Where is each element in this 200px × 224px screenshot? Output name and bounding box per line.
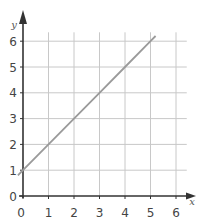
axes bbox=[19, 10, 196, 200]
series-line bbox=[18, 36, 156, 175]
y-axis-arrow-icon bbox=[19, 10, 27, 24]
x-tick-label: 3 bbox=[96, 206, 104, 220]
data-series bbox=[18, 36, 156, 175]
y-tick-label: 5 bbox=[9, 61, 17, 75]
x-tick-label: 0 bbox=[17, 206, 25, 220]
x-tick-label: 2 bbox=[70, 206, 78, 220]
y-tick-label: 0 bbox=[9, 190, 17, 204]
tick-labels: 01234560123456xy bbox=[9, 19, 195, 220]
x-tick-label: 4 bbox=[121, 206, 129, 220]
x-tick-label: 5 bbox=[147, 206, 155, 220]
grid-lines bbox=[23, 32, 187, 196]
y-tick-label: 3 bbox=[9, 112, 17, 126]
y-tick-label: 6 bbox=[9, 35, 17, 49]
y-tick-label: 4 bbox=[9, 86, 17, 100]
line-chart: 01234560123456xy bbox=[0, 0, 200, 224]
y-tick-label: 1 bbox=[9, 164, 17, 178]
x-tick-label: 6 bbox=[172, 206, 180, 220]
y-tick-label: 2 bbox=[9, 138, 17, 152]
x-tick-label: 1 bbox=[45, 206, 53, 220]
y-axis-label: y bbox=[10, 19, 17, 30]
x-axis-label: x bbox=[189, 196, 195, 207]
